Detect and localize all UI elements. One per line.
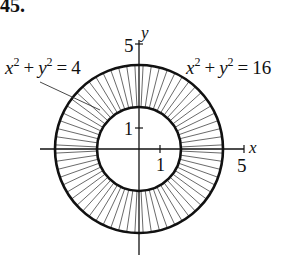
hatch-line [119,190,129,231]
hatch-line [56,137,98,143]
x-tick-5-label: 5 [237,155,247,176]
hatch-line [145,191,151,233]
hatch-line [56,155,98,161]
y-axis-label: y [139,23,149,42]
hatch-line [180,159,221,169]
hatch-line [58,129,99,139]
hatch-line [127,191,133,233]
hatch-line [58,159,99,169]
hatch-line [181,151,223,153]
hatch-line [180,129,221,139]
hatch-line [149,68,159,109]
hatch-line [145,66,151,108]
hatch-line [181,137,223,143]
hatch-line [141,65,143,107]
hatch-line [55,145,97,147]
hatch-line [55,151,97,153]
x-tick-1-label: 1 [156,155,165,175]
hatch-line [181,155,223,161]
y-tick-5-label: 5 [124,35,134,56]
annulus-figure: y 5 x 5 1 1 x2+y2=4 x2+y2=16 [0,0,293,255]
hatch-line [119,68,129,109]
hatch-line [135,65,137,107]
outer-equation: x2+y2=16 [185,55,271,78]
hatch-line [181,145,223,147]
y-tick-1-label: 1 [124,119,133,139]
inner-equation: x2+y2=4 [4,55,81,78]
hatch-line [141,191,143,233]
x-axis-label: x [248,138,257,157]
hatch-line [127,66,133,108]
hatch-line [149,190,159,231]
hatch-line [135,191,137,233]
